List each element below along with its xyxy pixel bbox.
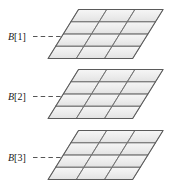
layer-label-index: [1] [14, 31, 26, 42]
layer-label-2: B[2] [8, 91, 26, 102]
layer-label-1: B[1] [8, 31, 26, 42]
layer-label-index: [3] [14, 152, 26, 163]
layer-label-3: B[3] [8, 152, 26, 163]
layer-label-index: [2] [14, 91, 26, 102]
stacked-grid-diagram: B[1]B[2]B[3] [0, 0, 171, 193]
